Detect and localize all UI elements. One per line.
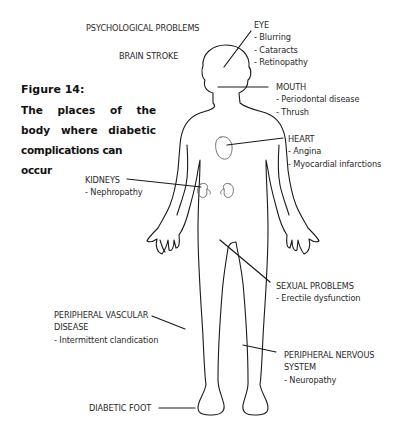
foot-heading: DIABETIC FOOT — [89, 402, 151, 414]
sexual-leader — [220, 240, 270, 282]
pvd-heading-2: DISEASE — [54, 321, 158, 333]
figure-title: Figure 14: — [21, 80, 156, 100]
heart-icon — [216, 137, 232, 159]
pns-heading-1: PERIPHERAL NERVOUS — [284, 349, 374, 361]
eye-leader — [224, 31, 251, 67]
label-mouth: MOUTH - Periodontal disease - Thrush — [276, 81, 359, 118]
kidneys-heading: KIDNEYS — [85, 174, 142, 186]
heart-heading: HEART — [288, 133, 381, 145]
eye-item: - Blurring — [254, 31, 308, 43]
eye-heading: EYE — [254, 19, 308, 31]
pns-heading-2: SYSTEM — [284, 361, 374, 373]
pns-item: - Neuropathy — [284, 374, 374, 386]
psychological-heading: PSYCHOLOGICAL PROBLEMS — [86, 22, 199, 34]
kidney-right-icon — [221, 183, 234, 197]
caption-line-2: body where diabetic — [21, 120, 156, 140]
label-heart: HEART - Angina - Myocardial infarctions — [288, 133, 381, 170]
sexual-heading: SEXUAL PROBLEMS — [276, 280, 360, 292]
sexual-item: - Erectile dysfunction — [276, 292, 360, 304]
label-peripheral-nervous-system: PERIPHERAL NERVOUS SYSTEM - Neuropathy — [284, 349, 374, 386]
label-sexual-problems: SEXUAL PROBLEMS - Erectile dysfunction — [276, 280, 360, 305]
heart-leader — [227, 138, 283, 145]
heart-item: - Angina — [288, 145, 381, 157]
pvd-item: - Intermittent clandication — [54, 334, 158, 346]
caption-line-1: The places of the — [21, 100, 156, 120]
label-diabetic-foot: DIABETIC FOOT — [89, 402, 151, 414]
mouth-item: - Periodontal disease — [276, 93, 359, 105]
eye-item: - Cataracts — [254, 44, 308, 56]
kidneys-item: - Nephropathy — [85, 186, 142, 198]
label-peripheral-vascular-disease: PERIPHERAL VASCULAR DISEASE - Intermitte… — [54, 309, 158, 346]
heart-item: - Myocardial infarctions — [288, 158, 381, 170]
brain-heading: BRAIN STROKE — [119, 50, 178, 62]
mouth-item: - Thrush — [276, 106, 359, 118]
label-brain-stroke: BRAIN STROKE — [119, 50, 178, 62]
figure-caption: Figure 14: The places of the body where … — [21, 80, 156, 180]
mouth-heading: MOUTH — [276, 81, 359, 93]
label-psychological: PSYCHOLOGICAL PROBLEMS — [86, 22, 199, 34]
label-kidneys: KIDNEYS - Nephropathy — [85, 174, 142, 199]
eye-item: - Retinopathy — [254, 56, 308, 68]
pvd-heading-1: PERIPHERAL VASCULAR — [54, 309, 158, 321]
label-eye: EYE - Blurring - Cataracts - Retinopathy — [254, 19, 308, 68]
